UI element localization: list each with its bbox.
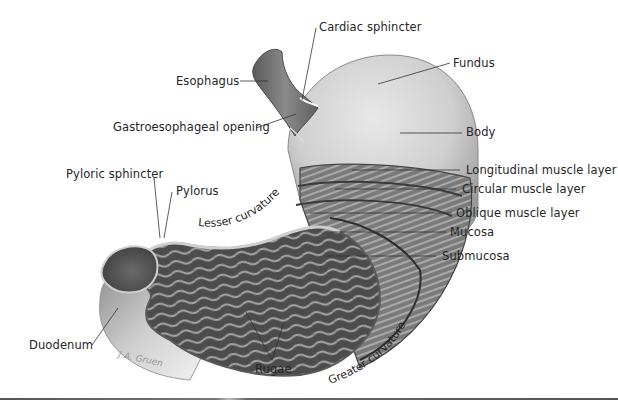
label-esophagus: Esophagus bbox=[176, 75, 239, 88]
stomach-diagram: J.A. Gruen Lesser curvature Greater curv… bbox=[0, 0, 618, 402]
label-oblique-muscle-layer: Oblique muscle layer bbox=[456, 207, 580, 220]
label-rugae: Rugae bbox=[255, 363, 292, 376]
label-fundus: Fundus bbox=[453, 57, 495, 70]
label-body: Body bbox=[466, 126, 495, 139]
label-gastroesophageal-opening: Gastroesophageal opening bbox=[113, 121, 270, 134]
label-mucosa: Mucosa bbox=[450, 226, 494, 239]
label-pyloric-sphincter: Pyloric sphincter bbox=[66, 168, 163, 181]
bottom-divider bbox=[0, 398, 618, 400]
label-circular-muscle-layer: Circular muscle layer bbox=[462, 183, 586, 196]
label-pylorus: Pylorus bbox=[176, 185, 219, 198]
label-duodenum: Duodenum bbox=[29, 339, 93, 352]
label-submucosa: Submucosa bbox=[442, 250, 510, 263]
pyloric-bulb bbox=[102, 246, 158, 292]
label-longitudinal-muscle-layer: Longitudinal muscle layer bbox=[466, 164, 617, 177]
label-cardiac-sphincter: Cardiac sphincter bbox=[319, 21, 422, 34]
